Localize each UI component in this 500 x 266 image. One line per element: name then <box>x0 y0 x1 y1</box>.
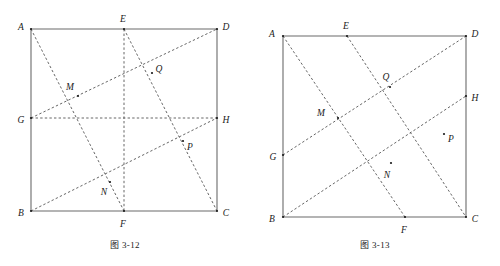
label-q: Q <box>156 64 163 74</box>
figure-3-13: ABCDEFGHMNPQ 图 3-13 <box>250 0 500 266</box>
figure-3-12: ABCDEFGHMNPQ 图 3-12 <box>0 0 250 266</box>
point-p <box>443 133 445 135</box>
label-g: G <box>18 115 25 125</box>
point-q <box>151 72 153 74</box>
point-m <box>77 95 79 97</box>
label-e: E <box>342 21 349 31</box>
page-canvas: ABCDEFGHMNPQ 图 3-12 ABCDEFGHMNPQ 图 3-13 <box>0 0 500 266</box>
label-b: B <box>269 214 275 224</box>
line-GD <box>283 36 466 155</box>
point-a <box>30 28 32 30</box>
label-h: H <box>471 93 480 103</box>
label-e: E <box>119 14 126 24</box>
point-f <box>123 210 125 212</box>
figure-3-12-caption: 图 3-12 <box>0 238 250 251</box>
label-d: D <box>471 29 479 39</box>
point-g <box>282 154 284 156</box>
label-n: N <box>100 187 108 197</box>
figure-3-12-drawing: ABCDEFGHMNPQ <box>0 0 250 236</box>
line-EC <box>347 36 466 217</box>
label-q: Q <box>383 72 390 82</box>
point-h <box>216 117 218 119</box>
point-d <box>216 28 218 30</box>
point-h <box>465 95 467 97</box>
label-c: C <box>223 208 230 218</box>
point-c <box>216 210 218 212</box>
label-f: F <box>400 225 407 235</box>
label-a: A <box>268 29 275 39</box>
label-n: N <box>383 170 391 180</box>
point-e <box>346 35 348 37</box>
label-p: P <box>447 134 454 144</box>
point-q <box>389 86 391 88</box>
line-BH <box>283 96 466 217</box>
point-e <box>123 28 125 30</box>
line-AF <box>31 29 124 211</box>
point-n <box>390 162 392 164</box>
line-EC <box>124 29 217 211</box>
figure-3-13-caption: 图 3-13 <box>250 238 500 251</box>
point-d <box>465 35 467 37</box>
point-f <box>404 216 406 218</box>
label-b: B <box>18 208 24 218</box>
label-p: P <box>186 142 193 152</box>
label-g: G <box>270 152 277 162</box>
label-h: H <box>222 115 231 125</box>
figure-3-13-drawing: ABCDEFGHMNPQ <box>250 0 500 236</box>
label-d: D <box>222 22 230 32</box>
point-g <box>30 117 32 119</box>
line-AF <box>283 36 405 217</box>
point-p <box>182 140 184 142</box>
label-c: C <box>472 214 479 224</box>
label-m: M <box>65 82 75 92</box>
point-b <box>282 216 284 218</box>
label-f: F <box>119 219 126 229</box>
point-m <box>337 117 339 119</box>
label-m: M <box>316 108 326 118</box>
point-c <box>465 216 467 218</box>
point-n <box>109 181 111 183</box>
label-a: A <box>17 22 24 32</box>
point-b <box>30 210 32 212</box>
point-a <box>282 35 284 37</box>
